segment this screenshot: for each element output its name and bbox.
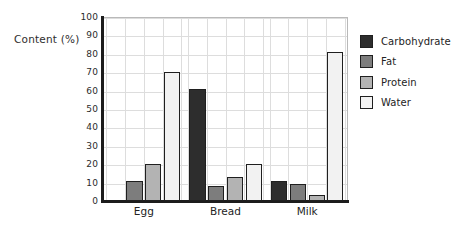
bar [290,184,306,201]
bar [126,181,142,201]
x-axis-category-label: Bread [210,205,241,217]
bar [309,195,325,201]
legend-item-label: Protein [381,77,417,88]
legend-item[interactable]: Fat [360,52,468,73]
y-axis-tick-label: 60 [72,86,98,96]
legend-item-label: Fat [381,56,396,67]
legend-item-label: Water [381,97,411,108]
bar [208,186,224,201]
x-axis-category-label: Milk [297,205,318,217]
y-axis-tick-label: 0 [72,196,98,206]
x-axis-category-labels: EggBreadMilk [103,205,348,225]
bar [271,181,287,201]
bar-chart-figure: Content (%) 1009080706050403020100 EggBr… [0,0,470,226]
legend-swatch-icon [360,35,373,48]
bar [164,72,180,201]
bars-layer [103,17,348,201]
legend-item[interactable]: Water [360,93,468,114]
y-axis-tick-label: 10 [72,178,98,188]
y-axis-tick-label: 50 [72,104,98,114]
legend-item-label: Carbohydrate [381,36,451,47]
legend-swatch-icon [360,76,373,89]
legend-swatch-icon [360,55,373,68]
legend-item[interactable]: Carbohydrate [360,31,468,52]
chart-legend: CarbohydrateFatProteinWater [360,31,468,113]
bar [246,164,262,201]
bar [189,89,205,201]
bar [227,177,243,201]
bar [327,52,343,201]
bar [145,164,161,201]
y-axis-tick-label: 30 [72,141,98,151]
y-axis-tick-label: 40 [72,122,98,132]
y-axis-tick-label: 100 [72,12,98,22]
legend-swatch-icon [360,96,373,109]
x-axis-category-label: Egg [134,205,154,217]
y-axis-tick-label: 90 [72,30,98,40]
y-axis-tick-label: 80 [72,49,98,59]
y-axis-tick-label: 70 [72,67,98,77]
legend-item[interactable]: Protein [360,72,468,93]
y-axis-tick-label: 20 [72,159,98,169]
y-axis-tick-labels: 1009080706050403020100 [70,0,98,226]
